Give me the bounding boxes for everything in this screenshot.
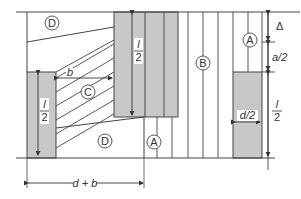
svg-text:b: b	[67, 66, 73, 78]
center-gray-bar	[114, 12, 178, 117]
svg-text:d + b: d + b	[73, 177, 98, 189]
region-a-bottom: A	[147, 135, 161, 149]
label-center-l-over-2: l 2	[134, 38, 143, 64]
region-b: B	[196, 56, 210, 70]
svg-text:2: 2	[41, 111, 47, 123]
svg-text:2: 2	[274, 111, 280, 123]
svg-text:A: A	[246, 34, 254, 46]
region-c: C	[81, 85, 95, 99]
label-d-plus-b: d + b	[73, 177, 98, 189]
region-d-bottom: D	[98, 134, 112, 148]
svg-text:B: B	[199, 57, 206, 69]
label-left-l-over-2: l 2	[40, 98, 49, 124]
svg-text:D: D	[48, 17, 56, 29]
svg-text:C: C	[84, 86, 92, 98]
svg-text:A: A	[150, 136, 158, 148]
region-d-top: D	[45, 16, 59, 30]
label-b: b	[66, 66, 74, 78]
region-a-right: A	[243, 33, 257, 47]
svg-text:l: l	[276, 98, 279, 110]
label-a-over-2: a/2	[272, 51, 287, 63]
label-d-over-2: d/2	[237, 109, 258, 121]
label-right-l-over-2: l 2	[272, 98, 282, 123]
diagram-canvas: D C D B A A l 2 l 2 l 2 b	[0, 0, 301, 199]
label-delta: Δ	[276, 20, 284, 32]
svg-text:d/2: d/2	[240, 109, 255, 121]
svg-text:2: 2	[135, 51, 141, 63]
svg-text:D: D	[101, 135, 109, 147]
